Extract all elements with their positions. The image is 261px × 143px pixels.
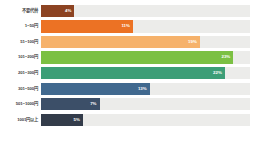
horizontal-bar-chart: 不要代替4%1~50円11%51~100円19%101~200円23%201~3… <box>0 0 261 143</box>
bar-value-label: 19% <box>188 40 200 44</box>
category-label: 不要代替 <box>0 9 41 13</box>
category-label: 101~200円 <box>0 55 41 59</box>
bar-row: 201~300円22% <box>0 66 250 80</box>
bar-track: 13% <box>41 83 250 95</box>
bar-row: 51~100円19% <box>0 35 250 49</box>
bar-value-label: 11% <box>121 24 133 28</box>
bar-row: 1001円以上5% <box>0 113 250 127</box>
bar-row: 不要代替4% <box>0 4 250 18</box>
bar: 19% <box>41 36 200 48</box>
category-label: 51~100円 <box>0 40 41 44</box>
bar: 13% <box>41 83 150 95</box>
bar-track: 11% <box>41 20 250 32</box>
category-label: 201~300円 <box>0 71 41 75</box>
bar-track: 23% <box>41 51 250 63</box>
bar-row: 301~500円13% <box>0 82 250 96</box>
bar-row: 501~1000円7% <box>0 97 250 111</box>
bar-value-label: 13% <box>138 87 150 91</box>
bar: 5% <box>41 114 83 126</box>
bar-value-label: 7% <box>90 102 99 106</box>
bar-track: 7% <box>41 98 250 110</box>
category-label: 1~50円 <box>0 24 41 28</box>
bar-track: 22% <box>41 67 250 79</box>
category-label: 1001円以上 <box>0 118 41 122</box>
bar-track: 19% <box>41 36 250 48</box>
bar-value-label: 23% <box>221 55 233 59</box>
category-label: 501~1000円 <box>0 102 41 106</box>
category-label: 301~500円 <box>0 87 41 91</box>
bar-track: 5% <box>41 114 250 126</box>
bar-value-label: 22% <box>213 71 225 75</box>
bar-row: 101~200円23% <box>0 51 250 65</box>
bar-row: 1~50円11% <box>0 20 250 34</box>
bar: 22% <box>41 67 225 79</box>
bar-track: 4% <box>41 5 250 17</box>
bar: 23% <box>41 51 233 63</box>
bar-value-label: 4% <box>65 9 74 13</box>
bar: 4% <box>41 5 74 17</box>
bar: 7% <box>41 98 100 110</box>
bar-value-label: 5% <box>73 118 82 122</box>
bar: 11% <box>41 20 133 32</box>
